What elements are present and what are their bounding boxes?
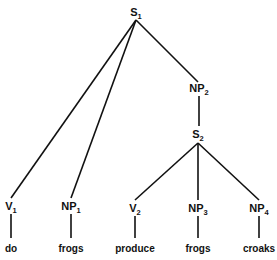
- tree-edge: [135, 143, 198, 200]
- syntax-tree: S1NP2S2V1NP1V2NP3NP4 dofrogsproducefrogs…: [0, 0, 277, 260]
- tree-edge: [11, 20, 136, 198]
- leaf-word: croaks: [243, 243, 276, 254]
- leaf-word: produce: [115, 243, 155, 254]
- leaf-word: frogs: [59, 243, 84, 254]
- node-s2: S2: [192, 128, 204, 143]
- tree-edge: [136, 20, 198, 82]
- node-np1: NP1: [61, 200, 80, 215]
- node-s1: S1: [130, 6, 142, 21]
- tree-nodes: S1NP2S2V1NP1V2NP3NP4: [5, 6, 269, 217]
- leaf-word: do: [5, 243, 17, 254]
- node-v2: V2: [129, 202, 141, 217]
- tree-leaf-words: dofrogsproducefrogscroaks: [5, 243, 276, 254]
- tree-edge: [198, 143, 259, 200]
- node-np3: NP3: [188, 202, 207, 217]
- node-np2: NP2: [189, 82, 208, 97]
- tree-edge: [71, 20, 136, 198]
- leaf-word: frogs: [186, 243, 211, 254]
- node-v1: V1: [5, 200, 17, 215]
- node-np4: NP4: [249, 202, 269, 217]
